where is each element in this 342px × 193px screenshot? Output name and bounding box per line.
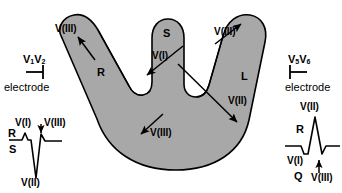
ecg-left-label-r: R	[8, 128, 16, 139]
electrode-caption-left-precordial: electrode	[285, 82, 330, 93]
electrode-caption-right-precordial: electrode	[4, 82, 49, 93]
vector-label-v3-apex: V(III)	[150, 128, 172, 138]
vector-label-v3-left-wall: V(III)	[214, 27, 236, 37]
ecg-left-label-v2: V(II)	[21, 178, 40, 188]
ecg-left-label-v3: V(III)	[44, 118, 66, 128]
electrode-label-right-precordial: V1V2	[23, 54, 46, 65]
region-label-r: R	[97, 67, 105, 78]
electrode-lead-v2: V	[34, 53, 41, 65]
electrode-lead-v2-sub: 2	[42, 58, 46, 65]
region-label-l: L	[241, 71, 248, 82]
ecg-left-label-v1: V(I)	[15, 118, 31, 128]
electrode-lead-v6-sub: 6	[307, 58, 311, 65]
vector-label-v2-left-wall: V(II)	[228, 96, 247, 106]
vector-label-v1-septum: V(I)	[152, 51, 168, 61]
electrode-marker-left-precordial	[290, 65, 307, 79]
electrode-label-left-precordial: V5V6	[288, 54, 311, 65]
ecg-right-label-v3: V(III)	[311, 173, 333, 183]
ecg-tracing-v1-v2	[9, 133, 62, 178]
ecg-right-label-v1: V(I)	[287, 156, 303, 166]
ecg-right-label-r: R	[296, 124, 304, 135]
electrode-lead-v6: V	[299, 53, 306, 65]
electrode-marker-right-precordial	[26, 65, 43, 79]
ecg-right-label-q: Q	[294, 171, 303, 182]
ecg-tracing-v5-v6	[285, 117, 340, 154]
ecg-right-label-v2: V(II)	[300, 102, 319, 112]
vector-label-v3-right-wall: V(III)	[55, 24, 77, 34]
region-label-s: S	[163, 28, 170, 39]
ecg-left-label-s: S	[9, 144, 16, 155]
